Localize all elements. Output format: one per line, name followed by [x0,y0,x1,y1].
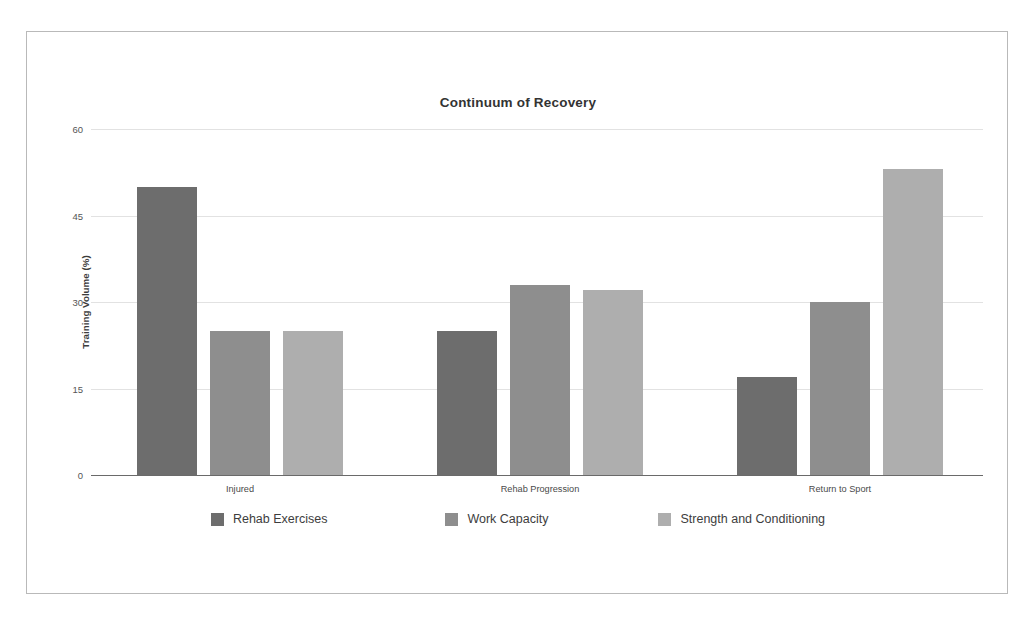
chart-title: Continuum of Recovery [27,95,1009,110]
bar[interactable] [737,377,797,475]
legend-swatch-icon [658,513,671,526]
y-tick-label: 30 [37,297,83,308]
bar[interactable] [883,169,943,475]
y-tick-label: 15 [37,383,83,394]
y-tick-label: 45 [37,210,83,221]
bar[interactable] [137,187,197,475]
bar[interactable] [510,285,570,475]
bar-group [737,129,943,475]
bar-group [437,129,643,475]
y-axis-tick-labels: 015304560 [27,129,83,475]
chart-legend: Rehab ExercisesWork CapacityStrength and… [27,512,1009,526]
legend-label: Rehab Exercises [233,512,328,526]
x-tick-label: Return to Sport [809,484,871,494]
bar-group [137,129,343,475]
bar[interactable] [583,290,643,475]
bar[interactable] [210,331,270,475]
plot-area [91,129,983,475]
x-tick-label: Rehab Progression [501,484,580,494]
legend-label: Strength and Conditioning [680,512,825,526]
x-axis-line [91,475,983,476]
legend-swatch-icon [211,513,224,526]
legend-label: Work Capacity [467,512,548,526]
legend-item[interactable]: Rehab Exercises [211,512,328,526]
bar[interactable] [810,302,870,475]
y-tick-label: 60 [37,124,83,135]
bar[interactable] [437,331,497,475]
legend-swatch-icon [445,513,458,526]
legend-item[interactable]: Strength and Conditioning [658,512,825,526]
chart-figure-frame: Continuum of Recovery Training Volume (%… [26,31,1008,594]
legend-item[interactable]: Work Capacity [445,512,548,526]
bar[interactable] [283,331,343,475]
x-tick-label: Injured [226,484,254,494]
y-tick-label: 0 [37,470,83,481]
